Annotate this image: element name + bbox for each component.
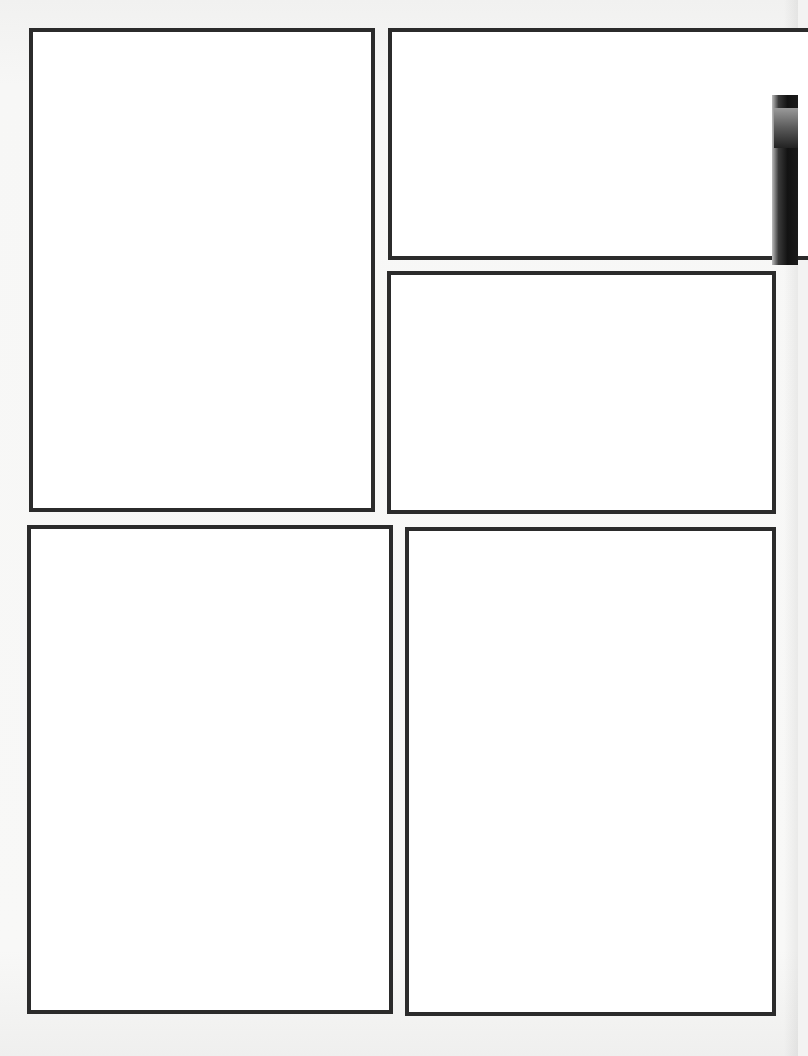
panel-top-right <box>388 28 808 260</box>
binding-shadow-highlight <box>774 108 798 148</box>
panel-top-left <box>29 28 375 512</box>
panel-bottom-right <box>405 527 776 1016</box>
panel-middle-right <box>387 271 776 514</box>
panel-bottom-left <box>27 525 393 1014</box>
